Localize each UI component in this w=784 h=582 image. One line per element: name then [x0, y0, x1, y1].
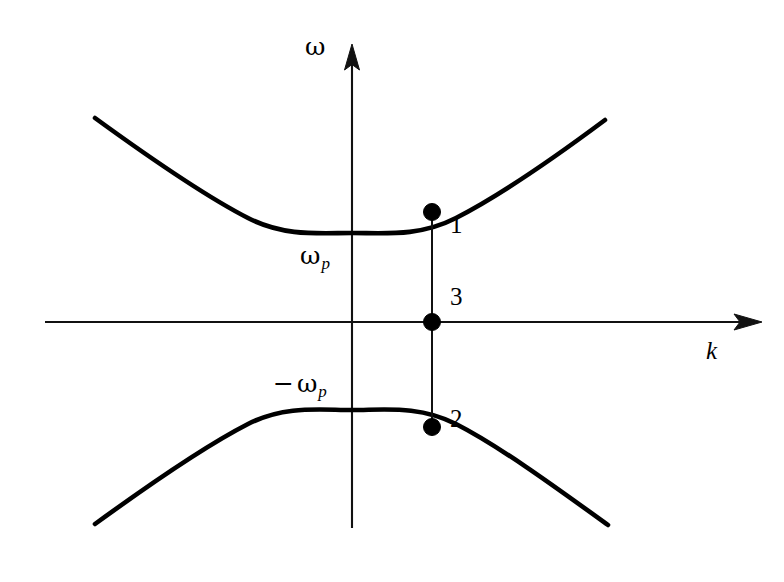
- point-marker-2: [424, 419, 441, 436]
- negative-omega-p-base: ω: [297, 369, 317, 398]
- point-label-2: 2: [450, 406, 463, 431]
- point-label-3: 3: [450, 284, 463, 309]
- omega-p-label: ωp: [300, 243, 330, 272]
- negative-omega-p-subscript: p: [317, 382, 327, 401]
- omega-axis-label: ω: [305, 34, 325, 59]
- k-axis-label: k: [706, 338, 717, 363]
- negative-omega-p-label: −ωp: [273, 371, 327, 400]
- dispersion-diagram: ω k ωp −ωp 1 3 2: [0, 0, 784, 582]
- point-marker-1: [424, 204, 441, 221]
- point-marker-3: [424, 314, 441, 331]
- omega-p-base: ω: [300, 241, 320, 270]
- minus-sign: −: [273, 369, 297, 398]
- plot-canvas: [0, 0, 784, 582]
- upper-branch-curve: [95, 118, 605, 233]
- omega-p-subscript: p: [320, 254, 330, 273]
- point-label-1: 1: [450, 212, 463, 237]
